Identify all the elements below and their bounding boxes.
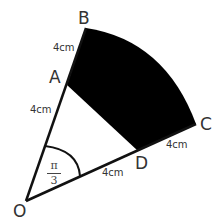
angle-numerator: π [50,159,57,172]
point-label-o: O [13,201,26,221]
length-label-od: 4cm [102,167,124,178]
length-label-oa: 4cm [30,104,52,115]
angle-label: π 3 [46,160,62,187]
point-label-a: A [49,67,61,87]
point-label-b: B [78,8,90,28]
angle-denominator: 3 [51,174,58,187]
length-label-ab: 4cm [53,42,75,53]
length-label-dc: 4cm [166,139,188,150]
point-label-c: C [200,114,212,134]
point-label-d: D [135,153,148,173]
geometry-diagram: B A C D O 4cm 4cm 4cm 4cm π 3 [0,0,223,224]
